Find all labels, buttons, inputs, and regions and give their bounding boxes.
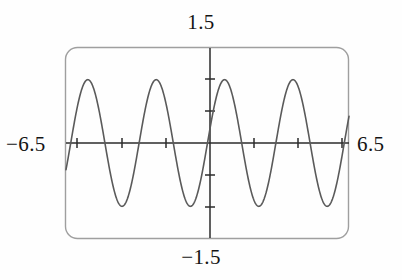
x-min-label: −6.5 [6, 134, 46, 155]
graph-plot-area[interactable] [0, 0, 402, 280]
y-max-label: 1.5 [0, 12, 402, 33]
x-max-label: 6.5 [357, 134, 384, 155]
y-min-label: −1.5 [0, 247, 402, 268]
calculator-screenshot: 1.5 −1.5 −6.5 6.5 [0, 0, 402, 280]
